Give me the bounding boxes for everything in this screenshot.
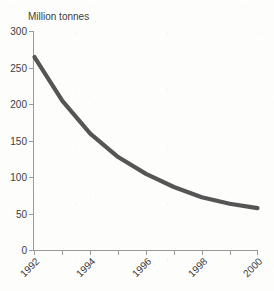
- y-tick-label: 100: [10, 172, 27, 183]
- x-tick-label: 1998: [186, 255, 210, 279]
- y-axis-ticks: [29, 32, 34, 251]
- y-tick-label: 50: [16, 209, 28, 220]
- y-tick-label: 300: [10, 26, 27, 37]
- x-axis-ticks: [35, 251, 258, 256]
- chart-figure: Million tonnes 300 250 200 150 100 50 0: [0, 0, 274, 291]
- y-axis-tick-labels: 300 250 200 150 100 50 0: [10, 26, 27, 256]
- y-tick-label: 150: [10, 136, 27, 147]
- data-series-line: [35, 57, 258, 208]
- line-chart-canvas: Million tonnes 300 250 200 150 100 50 0: [0, 0, 274, 291]
- y-axis-title: Million tonnes: [28, 11, 89, 22]
- x-tick-label: 1992: [18, 255, 42, 279]
- y-tick-label: 200: [10, 99, 27, 110]
- x-tick-label: 1996: [130, 255, 154, 279]
- x-tick-label: 1994: [74, 255, 98, 279]
- x-tick-label: 2000: [241, 255, 265, 279]
- y-tick-label: 250: [10, 63, 27, 74]
- x-axis-tick-labels: 1992 1994 1996 1998 2000: [18, 255, 265, 279]
- y-tick-label: 0: [21, 245, 27, 256]
